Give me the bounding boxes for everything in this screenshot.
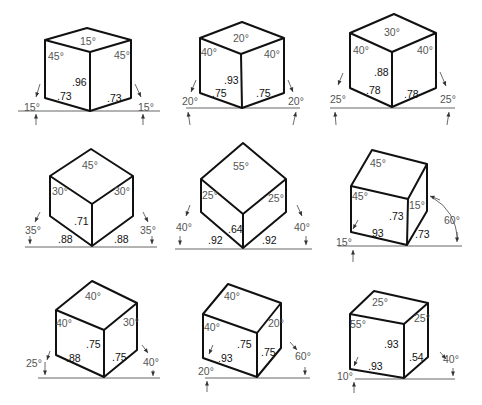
face-angle-label: 30° bbox=[114, 185, 130, 197]
axis-scale-label: .75 bbox=[212, 87, 227, 99]
cube-vertical-edge bbox=[407, 199, 408, 245]
arrowhead-icon bbox=[178, 241, 182, 246]
face-angle-label: 25° bbox=[202, 189, 218, 201]
arrowhead-icon bbox=[34, 114, 38, 119]
face-angle-label: 15° bbox=[409, 199, 425, 211]
face-angle-label: 20° bbox=[233, 32, 249, 44]
arrowhead-icon bbox=[451, 372, 455, 377]
axis-scale-label: .75 bbox=[256, 87, 271, 99]
axis-scale-label: .73 bbox=[415, 228, 430, 240]
axis-scale-label: .78 bbox=[404, 88, 419, 100]
axis-scale-label: .73 bbox=[57, 90, 72, 102]
axonometric-cube-figure: 15°45°45°.96.73.7315°15°20°40°40°.93.75.… bbox=[0, 0, 482, 405]
axis-scale-label: .88 bbox=[66, 352, 81, 364]
receding-angle-label: 15° bbox=[138, 101, 154, 113]
face-angle-label: 30° bbox=[123, 316, 139, 328]
face-angle-label: 40° bbox=[224, 290, 240, 302]
cube-3: 30°40°40°.88.78.7825°25° bbox=[330, 14, 456, 125]
cube-2: 20°40°40°.93.75.7520°20° bbox=[182, 22, 304, 125]
arrowhead-icon bbox=[28, 240, 32, 245]
cube-7: 40°40°30°.75.88.7525°40° bbox=[26, 281, 160, 378]
receding-angle-label: 25° bbox=[440, 93, 456, 105]
cube-5: 55°25°25°.64.92.9240°40° bbox=[175, 143, 312, 249]
axis-scale-label: .93 bbox=[384, 338, 399, 350]
axis-scale-label: .75 bbox=[237, 338, 252, 350]
arrowhead-icon bbox=[333, 112, 337, 117]
receding-angle-label: 40° bbox=[294, 221, 310, 233]
arrowhead-icon bbox=[304, 241, 308, 246]
face-angle-label: 40° bbox=[417, 44, 433, 56]
axis-scale-label: .93 bbox=[368, 360, 383, 372]
arrowhead-icon bbox=[455, 238, 459, 243]
arrowhead-icon bbox=[47, 355, 51, 360]
axis-scale-label: .92 bbox=[262, 234, 277, 246]
face-angle-label: 55° bbox=[350, 318, 366, 330]
arrowhead-icon bbox=[293, 112, 297, 117]
axis-scale-label: .88 bbox=[374, 66, 389, 78]
receding-angle-label: 20° bbox=[182, 95, 198, 107]
arrowhead-icon bbox=[352, 382, 356, 387]
receding-angle-label: 40° bbox=[443, 353, 459, 365]
axis-scale-label: .92 bbox=[208, 234, 223, 246]
axis-scale-label: .71 bbox=[74, 215, 89, 227]
arrowhead-icon bbox=[205, 381, 209, 386]
arrowhead-icon bbox=[187, 112, 191, 117]
cube-8: 40°40°20°.75.93.7520°60° bbox=[198, 284, 311, 392]
arrowhead-icon bbox=[141, 114, 145, 119]
face-angle-label: 45° bbox=[82, 159, 98, 171]
cube-1: 15°45°45°.96.73.7315°15° bbox=[18, 28, 160, 125]
receding-angle-label: 25° bbox=[330, 93, 346, 105]
axis-scale-label: .75 bbox=[112, 351, 127, 363]
face-angle-label: 40° bbox=[264, 48, 280, 60]
axis-scale-label: .93 bbox=[224, 74, 239, 86]
face-angle-label: 25° bbox=[414, 312, 430, 324]
axis-scale-label: .73 bbox=[389, 210, 404, 222]
receding-angle-label: 40° bbox=[176, 221, 192, 233]
receding-angle-label: 20° bbox=[198, 365, 214, 377]
face-angle-label: 40° bbox=[204, 321, 220, 333]
axis-scale-label: .93 bbox=[218, 352, 233, 364]
cube-diagram-canvas: 15°45°45°.96.73.7315°15°20°40°40°.93.75.… bbox=[0, 0, 482, 405]
face-angle-label: 20° bbox=[268, 317, 284, 329]
face-angle-label: 30° bbox=[384, 26, 400, 38]
face-angle-label: 40° bbox=[56, 317, 72, 329]
receding-angle-label: 40° bbox=[143, 356, 159, 368]
receding-angle-label: 35° bbox=[140, 224, 156, 236]
cube-4: 45°30°30°.71.88.8835°35° bbox=[25, 149, 157, 247]
arrowhead-icon bbox=[150, 240, 154, 245]
face-angle-label: 40° bbox=[85, 290, 101, 302]
arrowhead-icon bbox=[446, 112, 450, 117]
axis-scale-label: .73 bbox=[107, 92, 122, 104]
axis-scale-label: .64 bbox=[228, 223, 243, 235]
face-angle-label: 45° bbox=[48, 50, 64, 62]
axis-scale-label: .93 bbox=[369, 227, 384, 239]
axis-scale-label: .96 bbox=[72, 76, 87, 88]
face-angle-label: 45° bbox=[114, 49, 130, 61]
axis-scale-label: .78 bbox=[366, 84, 381, 96]
face-angle-label: 45° bbox=[352, 190, 368, 202]
receding-angle-label: 60° bbox=[295, 350, 311, 362]
receding-angle-label: 20° bbox=[288, 95, 304, 107]
cube-6: 45°45°15°.73.93.7315°60° bbox=[336, 150, 462, 262]
cube-9: 25°55°25°.93.93.5410°40° bbox=[337, 291, 459, 393]
receding-angle-label: 15° bbox=[24, 101, 40, 113]
face-angle-label: 40° bbox=[353, 44, 369, 56]
arrowhead-icon bbox=[35, 92, 39, 97]
arrowhead-icon bbox=[186, 211, 190, 216]
face-angle-label: 15° bbox=[80, 35, 96, 47]
arrowhead-icon bbox=[351, 250, 355, 255]
cube-vertical-edge bbox=[241, 54, 242, 108]
receding-angle-label: 35° bbox=[25, 224, 41, 236]
face-angle-label: 25° bbox=[268, 192, 284, 204]
receding-angle-label: 10° bbox=[337, 370, 353, 382]
face-angle-label: 25° bbox=[372, 296, 388, 308]
arrowhead-icon bbox=[303, 371, 307, 376]
cube-outline bbox=[350, 291, 428, 378]
axis-scale-label: .88 bbox=[58, 233, 73, 245]
face-angle-label: 55° bbox=[233, 160, 249, 172]
arrowhead-icon bbox=[151, 372, 155, 377]
receding-angle-label: 25° bbox=[26, 357, 42, 369]
axis-scale-label: .54 bbox=[409, 351, 424, 363]
receding-angle-label: 60° bbox=[444, 214, 460, 226]
axis-scale-label: .88 bbox=[114, 233, 129, 245]
